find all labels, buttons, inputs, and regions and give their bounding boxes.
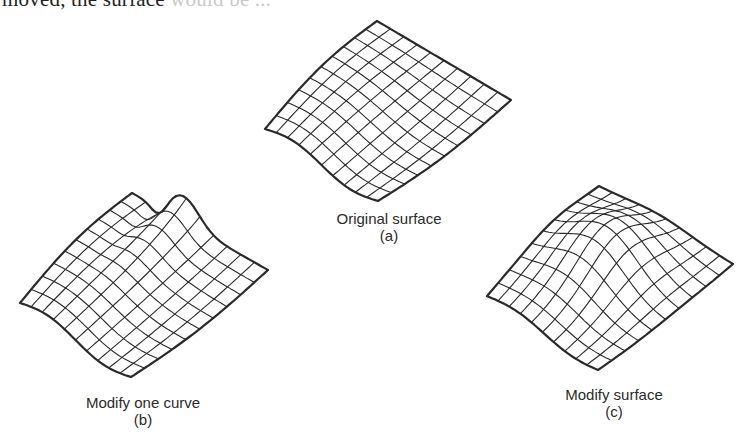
caption-modify-surface: Modify surface (c) <box>565 386 663 420</box>
caption-title: Original surface <box>336 210 441 227</box>
caption-title: Modify surface <box>565 386 663 403</box>
original-surface-wireframe <box>265 21 511 201</box>
modified-curve-surface-wireframe <box>20 193 268 377</box>
caption-title: Modify one curve <box>86 394 200 411</box>
caption-original-surface: Original surface (a) <box>336 210 441 244</box>
caption-sublabel: (b) <box>86 411 200 428</box>
caption-sublabel: (a) <box>336 227 441 244</box>
modified-surface-wireframe <box>487 186 733 370</box>
caption-sublabel: (c) <box>565 403 663 420</box>
caption-modify-one-curve: Modify one curve (b) <box>86 394 200 428</box>
